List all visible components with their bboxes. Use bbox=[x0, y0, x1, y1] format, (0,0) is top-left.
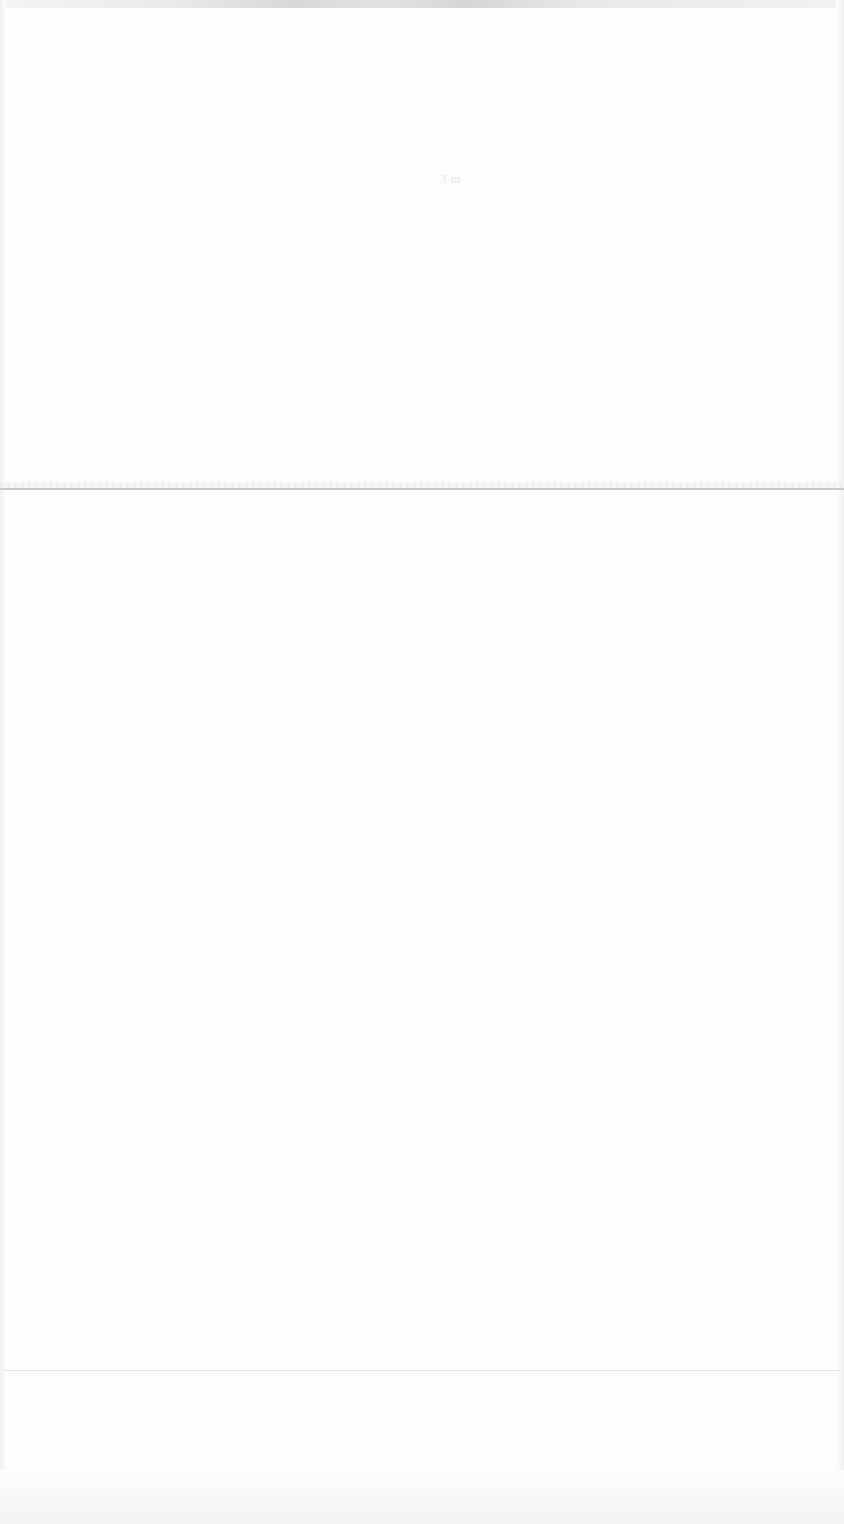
left-page-edge bbox=[0, 0, 6, 1524]
faint-text: 3 m bbox=[440, 172, 461, 187]
horizontal-divider bbox=[0, 488, 844, 490]
right-page-edge bbox=[836, 0, 844, 1524]
bottom-divider bbox=[4, 1370, 840, 1371]
top-edge-strip bbox=[0, 0, 844, 8]
bottom-page-texture bbox=[0, 1470, 844, 1524]
